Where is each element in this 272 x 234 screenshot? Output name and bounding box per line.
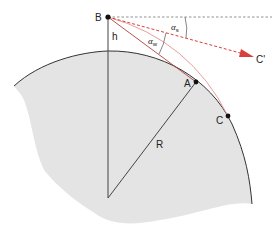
arrowhead-icon — [239, 49, 254, 57]
point-A — [194, 80, 199, 85]
label-h: h — [112, 31, 118, 42]
apparent-direction-dashed — [108, 17, 244, 54]
label-A: A — [184, 78, 191, 89]
label-C: C — [216, 115, 223, 126]
label-B: B — [95, 12, 102, 23]
alpha-s-angle-arc — [185, 17, 187, 38]
point-C — [226, 114, 231, 119]
label-alpha-s: αs — [171, 22, 179, 33]
point-B — [105, 14, 110, 19]
horizon-geometry-diagram: B h A C C' R αs αw — [0, 0, 272, 234]
alpha-w-angle-arc — [159, 33, 166, 54]
earth-body — [14, 51, 252, 223]
label-C-prime: C' — [256, 54, 265, 65]
label-R: R — [156, 139, 163, 150]
